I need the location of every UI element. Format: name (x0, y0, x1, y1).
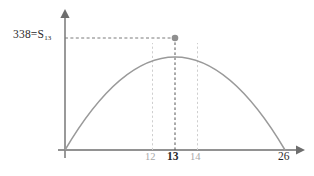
y-axis-arrowhead (60, 9, 69, 18)
x-tick-label-14: 14 (190, 152, 201, 163)
chart-plot-area (0, 0, 314, 176)
peak-value-subscript: 13 (44, 34, 51, 42)
x-axis-arrowhead (296, 145, 305, 154)
peak-value-label: 338=S13 (13, 29, 51, 42)
x-tick-label-13: 13 (167, 151, 179, 163)
peak-marker-dot (172, 35, 179, 42)
x-tick-label-26: 26 (278, 151, 290, 163)
parabola-chart-figure: 338=S13 12 13 14 26 (0, 0, 314, 176)
peak-value-text: 338=S (13, 28, 44, 40)
x-tick-label-12: 12 (145, 152, 156, 163)
